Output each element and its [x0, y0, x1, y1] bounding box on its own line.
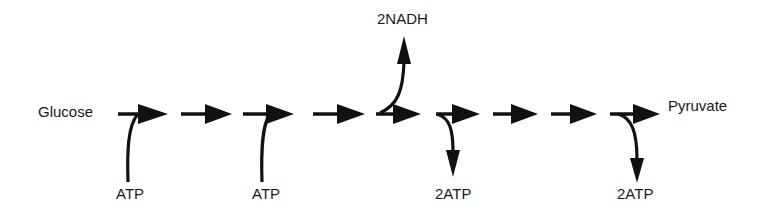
step-arrow-2 [181, 104, 232, 124]
step-arrow-4 [313, 104, 365, 124]
step-arrow-6 [436, 104, 480, 124]
step-arrow-9 [610, 104, 660, 124]
atp-input-arrow-1 [128, 114, 138, 182]
atp-output-label-2: 2ATP [617, 186, 653, 201]
nadh-arrowhead [397, 36, 411, 64]
step-arrow-7 [493, 104, 538, 124]
glucose-label: Glucose [38, 104, 93, 119]
nadh-output-arrow [380, 62, 404, 113]
step-arrow-1 [118, 104, 168, 124]
pyruvate-label: Pyruvate [668, 98, 727, 113]
atp-input-label-2: ATP [252, 186, 280, 201]
glycolysis-diagram [0, 0, 779, 215]
atp-output-arrowhead-2 [630, 158, 644, 183]
atp-input-label-1: ATP [116, 186, 144, 201]
atp-output-arrowhead-1 [446, 150, 460, 177]
step-arrow-5 [376, 104, 421, 124]
atp-output-label-1: 2ATP [435, 186, 471, 201]
atp-input-arrow-2 [262, 114, 270, 182]
nadh-output-label: 2NADH [377, 11, 428, 26]
atp-output-arrow-1 [437, 114, 453, 152]
step-arrow-8 [551, 104, 597, 124]
